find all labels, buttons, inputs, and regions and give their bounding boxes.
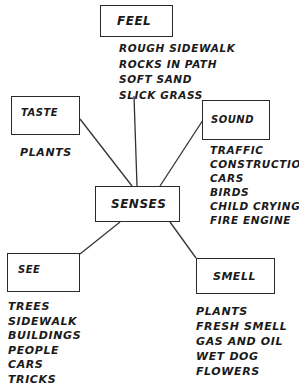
node-sound-items: TRAFFIC CONSTRUCTION CARS BIRDS CHILD CR… <box>210 143 299 227</box>
node-senses-center: SENSES <box>95 186 180 222</box>
list-item: FLOWERS <box>196 364 287 379</box>
node-sound-label: SOUND <box>211 114 254 125</box>
list-item: CARS <box>210 171 299 185</box>
node-see-label: SEE <box>18 264 40 275</box>
list-item: ROCKS IN PATH <box>119 57 236 73</box>
senses-mind-map: FEEL ROUGH SIDEWALK ROCKS IN PATH SOFT S… <box>0 0 299 385</box>
list-item: TRICKS <box>8 373 81 385</box>
node-taste-items: PLANTS <box>20 146 72 160</box>
list-item: ROUGH SIDEWALK <box>119 41 236 57</box>
node-feel: FEEL <box>100 5 173 37</box>
edge-senses-smell <box>170 222 196 258</box>
edge-senses-feel <box>134 96 137 186</box>
node-taste: TASTE <box>11 96 80 135</box>
list-item: PEOPLE <box>8 344 81 359</box>
node-smell: SMELL <box>196 258 275 294</box>
list-item: WET DOG <box>196 349 287 364</box>
list-item: FRESH SMELL <box>196 319 287 334</box>
node-see: SEE <box>7 253 80 292</box>
node-smell-label: SMELL <box>213 270 256 283</box>
list-item: PLANTS <box>196 304 287 319</box>
edge-senses-sound <box>160 120 203 186</box>
list-item: BIRDS <box>210 185 299 199</box>
list-item: FIRE ENGINE <box>210 213 299 227</box>
list-item: SOFT SAND <box>119 72 236 88</box>
node-feel-items: ROUGH SIDEWALK ROCKS IN PATH SOFT SAND S… <box>119 41 236 103</box>
node-senses-label: SENSES <box>111 197 166 211</box>
node-taste-label: TASTE <box>21 107 58 118</box>
edge-senses-see <box>80 222 120 254</box>
list-item: GAS AND OIL <box>196 334 287 349</box>
edge-senses-taste <box>80 119 132 186</box>
node-sound: SOUND <box>202 100 270 140</box>
list-item: SIDEWALK <box>8 315 81 330</box>
list-item: PLANTS <box>20 146 72 160</box>
list-item: CARS <box>8 358 81 373</box>
list-item: CONSTRUCTION <box>210 157 299 171</box>
node-feel-label: FEEL <box>117 14 151 28</box>
node-smell-items: PLANTS FRESH SMELL GAS AND OIL WET DOG F… <box>196 304 287 379</box>
list-item: TRAFFIC <box>210 143 299 157</box>
node-see-items: TREES SIDEWALK BUILDINGS PEOPLE CARS TRI… <box>8 300 81 385</box>
list-item: TREES <box>8 300 81 315</box>
list-item: BUILDINGS <box>8 329 81 344</box>
list-item: CHILD CRYING <box>210 199 299 213</box>
